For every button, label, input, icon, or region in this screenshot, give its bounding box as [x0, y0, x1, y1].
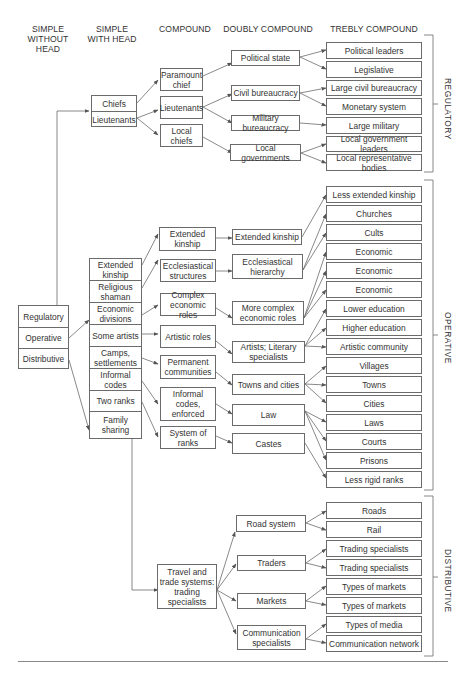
node-cities[interactable]: Cities	[326, 395, 422, 412]
node-courts[interactable]: Courts	[326, 433, 422, 450]
node-economic-2[interactable]: Economic	[326, 262, 422, 279]
node-label: Political state	[241, 53, 290, 63]
node-large-civil-bureaucracy[interactable]: Large civil bureaucracy	[326, 80, 422, 96]
node-label: Higher education	[342, 323, 405, 333]
bracket-label-regulatory: REGULATORY	[443, 78, 453, 140]
node-chiefs[interactable]: Chiefs	[92, 96, 136, 112]
node-label: Two ranks	[96, 396, 134, 406]
node-ecclesiastical-hierarchy[interactable]: Ecclesiastical hierarchy	[232, 254, 303, 279]
node-types-of-markets-2[interactable]: Types of markets	[326, 597, 422, 614]
node-local-governments[interactable]: Local governments	[230, 144, 301, 161]
node-civil-bureaucracy[interactable]: Civil bureaucracy	[231, 85, 300, 101]
node-label: Communication network	[329, 639, 419, 649]
node-local-representative-bodies[interactable]: Local representative bodies	[326, 154, 422, 171]
node-some-artists[interactable]: Some artists	[90, 325, 141, 347]
node-economic-divisions[interactable]: Economic divisions	[90, 303, 141, 325]
node-cults[interactable]: Cults	[326, 224, 422, 241]
node-prisons[interactable]: Prisons	[326, 452, 422, 469]
node-political-state[interactable]: Political state	[231, 50, 300, 66]
node-complex-economic-roles[interactable]: Complex economic roles	[160, 293, 216, 316]
node-economic-3[interactable]: Economic	[326, 281, 422, 298]
node-label: Lieutenants	[160, 103, 203, 113]
node-less-rigid-ranks[interactable]: Less rigid ranks	[326, 471, 422, 488]
node-label: More complex economic roles	[234, 303, 302, 323]
node-local-chiefs[interactable]: Local chiefs	[160, 124, 203, 147]
node-travel-and-trade[interactable]: Travel and trade systems: trading specia…	[157, 564, 217, 609]
node-two-ranks[interactable]: Two ranks	[90, 391, 141, 412]
node-roads[interactable]: Roads	[326, 502, 422, 519]
node-economic-1[interactable]: Economic	[326, 243, 422, 260]
node-label: Road system	[247, 519, 296, 529]
node-label: Civil bureaucracy	[233, 88, 297, 98]
node-lieutenants[interactable]: Lieutenants	[92, 112, 136, 127]
node-political-leaders[interactable]: Political leaders	[326, 42, 422, 59]
node-law[interactable]: Law	[232, 404, 305, 426]
node-religious-shaman[interactable]: Religious shaman	[90, 281, 141, 303]
node-large-military[interactable]: Large military	[326, 117, 422, 134]
node-more-complex-economic-roles[interactable]: More complex economic roles	[232, 301, 304, 325]
node-types-of-markets-1[interactable]: Types of markets	[326, 578, 422, 595]
node-trading-specialists-2[interactable]: Trading specialists	[326, 559, 422, 576]
node-label: Towns and cities	[238, 380, 299, 390]
node-towns-and-cities[interactable]: Towns and cities	[232, 374, 305, 395]
node-compound-extended-kinship[interactable]: Extended kinship	[159, 227, 216, 251]
node-artistic-roles[interactable]: Artistic roles	[160, 325, 216, 348]
node-label: Complex economic roles	[162, 290, 214, 320]
node-family-sharing[interactable]: Family sharing	[90, 412, 141, 438]
bottom-divider	[18, 661, 448, 662]
bracket-label: OPERATIVE	[443, 312, 453, 364]
node-types-of-media[interactable]: Types of media	[326, 616, 422, 633]
node-label: Local government leaders	[328, 134, 420, 154]
node-regulatory[interactable]: Regulatory	[19, 306, 68, 328]
node-communication-network[interactable]: Communication network	[326, 635, 422, 652]
node-rail[interactable]: Rail	[326, 521, 422, 538]
node-monetary-system[interactable]: Monetary system	[326, 98, 422, 115]
node-extended-kinship[interactable]: Extended kinship	[90, 259, 141, 281]
node-communication-specialists[interactable]: Communication specialists	[237, 625, 306, 650]
node-label: Law	[261, 410, 276, 420]
node-higher-education[interactable]: Higher education	[326, 319, 422, 336]
node-informal-codes-enforced[interactable]: Informal codes, enforced	[160, 387, 216, 421]
node-less-extended-kinship[interactable]: Less extended kinship	[326, 186, 422, 203]
node-artists-literary-specialists[interactable]: Artists; Literary specialists	[232, 341, 305, 363]
node-label: Courts	[362, 437, 387, 447]
node-label: Traders	[257, 558, 286, 568]
node-road-system[interactable]: Road system	[236, 515, 306, 532]
node-label: Political leaders	[345, 46, 404, 56]
node-label: Monetary system	[342, 102, 406, 112]
node-military-bureaucracy[interactable]: Military bureaucracy	[231, 115, 300, 131]
node-castes[interactable]: Castes	[232, 433, 305, 454]
node-lower-education[interactable]: Lower education	[326, 300, 422, 317]
node-permanent-communities[interactable]: Permanent communities	[160, 355, 216, 379]
node-label: Less extended kinship	[333, 190, 416, 200]
node-legislative[interactable]: Legislative	[326, 61, 422, 78]
node-label: Informal codes	[90, 370, 141, 390]
node-ecclesiastical-structures[interactable]: Ecclesiastical structures	[160, 259, 216, 282]
node-label: Extended kinship	[161, 229, 214, 249]
node-doubly-extended-kinship[interactable]: Extended kinship	[232, 229, 302, 245]
node-label: Travel and trade systems: trading specia…	[159, 567, 215, 607]
node-trading-specialists-1[interactable]: Trading specialists	[326, 540, 422, 557]
node-artistic-community[interactable]: Artistic community	[326, 338, 422, 355]
node-markets[interactable]: Markets	[237, 593, 306, 609]
node-traders[interactable]: Traders	[237, 555, 306, 571]
node-system-of-ranks[interactable]: System of ranks	[160, 426, 216, 449]
node-label: Regulatory	[23, 312, 64, 322]
node-laws[interactable]: Laws	[326, 414, 422, 431]
bracket-label-operative: OPERATIVE	[443, 312, 453, 364]
node-churches[interactable]: Churches	[326, 205, 422, 222]
node-compound-lieutenants[interactable]: Lieutenants	[160, 96, 203, 119]
node-local-government-leaders[interactable]: Local government leaders	[326, 136, 422, 152]
node-camps-settlements[interactable]: Camps, settlements	[90, 347, 141, 369]
node-label: Less rigid ranks	[345, 475, 404, 485]
node-label: Economic	[356, 266, 393, 276]
node-label: Castes	[255, 439, 281, 449]
node-label: Types of media	[346, 620, 403, 630]
node-paramount-chief[interactable]: Paramount chief	[160, 68, 203, 91]
node-informal-codes[interactable]: Informal codes	[90, 369, 141, 391]
node-label: Informal codes, enforced	[162, 389, 214, 419]
node-operative[interactable]: Operative	[19, 328, 68, 349]
node-villages[interactable]: Villages	[326, 357, 422, 374]
node-towns[interactable]: Towns	[326, 376, 422, 393]
node-distributive[interactable]: Distributive	[19, 349, 68, 369]
